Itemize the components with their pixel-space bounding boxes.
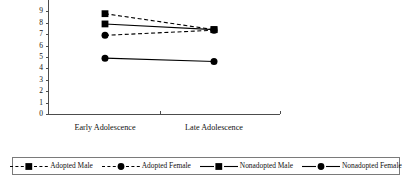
legend-marker-square <box>26 163 33 170</box>
legend-label: Adopted Male <box>50 162 93 170</box>
legend-marker-circle <box>117 163 124 170</box>
plot-area: 0123456789 Early AdolescenceLate Adolesc… <box>0 0 418 150</box>
x-category-label: Late Adolescence <box>154 123 274 132</box>
legend-label: Adopted Female <box>142 162 191 170</box>
legend-marker-square <box>215 163 222 170</box>
legend-entry: Nonadopted Male <box>200 162 293 171</box>
data-series <box>102 55 218 65</box>
series-marker-square <box>102 21 109 28</box>
data-series <box>102 10 218 33</box>
series-marker-circle <box>211 58 218 65</box>
x-category-label: Early Adolescence <box>45 123 165 132</box>
series-line <box>105 30 214 35</box>
legend-label: Nonadopted Male <box>240 162 293 170</box>
legend-marker-circle <box>318 163 325 170</box>
legend-label: Nonadopted Female <box>342 162 402 170</box>
series-marker-square <box>211 26 218 33</box>
legend-entry: Adopted Female <box>102 162 191 171</box>
series-line <box>105 58 214 61</box>
legend-entry: Nonadopted Female <box>302 162 402 171</box>
legend-swatch <box>102 162 140 171</box>
chart-figure: 0123456789 Early AdolescenceLate Adolesc… <box>0 0 418 176</box>
legend-swatch <box>200 162 238 171</box>
series-marker-circle <box>102 55 109 62</box>
series-marker-square <box>102 10 109 17</box>
legend-entry: Adopted Male <box>10 162 93 171</box>
series-marker-circle <box>102 32 109 39</box>
legend-swatch <box>302 162 340 171</box>
chart-legend: Adopted MaleAdopted FemaleNonadopted Mal… <box>12 157 400 175</box>
legend-swatch <box>10 162 48 171</box>
